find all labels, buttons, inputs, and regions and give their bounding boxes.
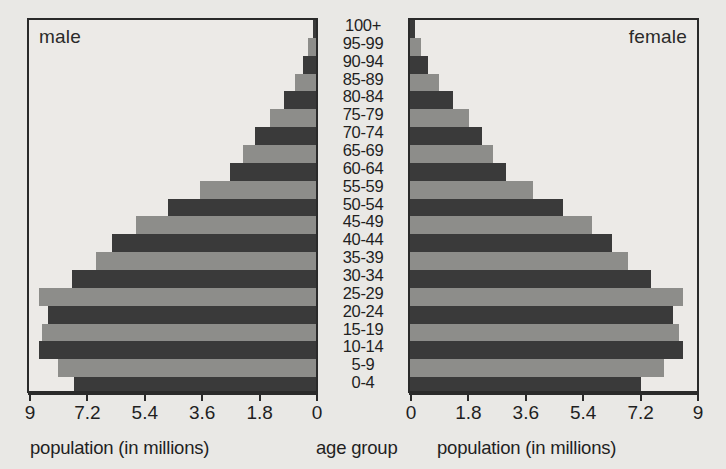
age-group-label-15-19: 15-19 xyxy=(318,321,408,339)
female-bars-group xyxy=(410,20,697,391)
bar-male-35-39 xyxy=(96,252,316,270)
bar-row xyxy=(410,91,697,109)
male-axis-caption: population (in millions) xyxy=(30,437,209,459)
axis-tick xyxy=(640,393,642,401)
bar-row xyxy=(29,20,316,38)
bar-male-50-54 xyxy=(168,199,316,217)
bar-male-15-19 xyxy=(42,324,316,342)
bar-male-65-69 xyxy=(243,145,316,163)
age-group-label-85-89: 85-89 xyxy=(318,71,408,89)
male-axis-line xyxy=(28,393,317,395)
bar-male-85-89 xyxy=(295,74,316,92)
axis-tick-label-0: 0 xyxy=(406,402,417,424)
bar-female-10-14 xyxy=(410,341,683,359)
axis-tick-label-9: 9 xyxy=(25,402,36,424)
age-group-label-70-74: 70-74 xyxy=(318,124,408,142)
bar-row xyxy=(410,216,697,234)
bar-row xyxy=(410,324,697,342)
bar-female-5-9 xyxy=(410,359,664,377)
male-x-axis: 97.25.43.61.80 xyxy=(27,393,318,403)
bar-row xyxy=(410,56,697,74)
female-panel: female xyxy=(408,18,699,393)
bar-row xyxy=(410,109,697,127)
age-group-label-80-84: 80-84 xyxy=(318,88,408,106)
bar-male-25-29 xyxy=(39,288,316,306)
bar-male-100+ xyxy=(313,20,316,38)
bar-row xyxy=(410,234,697,252)
bar-row xyxy=(410,163,697,181)
bar-male-30-34 xyxy=(72,270,316,288)
bar-male-75-79 xyxy=(270,109,316,127)
male-panel: male xyxy=(27,18,318,393)
bar-row xyxy=(410,199,697,217)
bar-row xyxy=(410,181,697,199)
bar-female-70-74 xyxy=(410,127,482,145)
bar-male-5-9 xyxy=(58,359,316,377)
age-group-label-60-64: 60-64 xyxy=(318,160,408,178)
bar-row xyxy=(29,109,316,127)
bar-female-65-69 xyxy=(410,145,493,163)
age-group-label-50-54: 50-54 xyxy=(318,196,408,214)
bar-female-100+ xyxy=(410,20,415,38)
bar-male-90-94 xyxy=(303,56,316,74)
bar-row xyxy=(410,127,697,145)
bar-row xyxy=(29,91,316,109)
bar-row xyxy=(410,145,697,163)
bar-female-50-54 xyxy=(410,199,563,217)
bar-female-60-64 xyxy=(410,163,506,181)
bar-female-30-34 xyxy=(410,270,651,288)
bar-row xyxy=(410,270,697,288)
bar-male-70-74 xyxy=(255,127,316,145)
age-group-label-5-9: 5-9 xyxy=(318,356,408,374)
age-group-label-100+: 100+ xyxy=(318,17,408,35)
bar-row xyxy=(29,288,316,306)
bar-male-45-49 xyxy=(136,216,316,234)
age-group-axis-caption: age group xyxy=(316,437,398,459)
bar-female-90-94 xyxy=(410,56,428,74)
bar-row xyxy=(29,359,316,377)
axis-tick xyxy=(259,393,261,401)
male-bars-group xyxy=(29,20,316,391)
age-group-label-55-59: 55-59 xyxy=(318,178,408,196)
population-pyramid-chart: male 100+95-9990-9485-8980-8475-7970-746… xyxy=(0,0,726,469)
age-group-label-40-44: 40-44 xyxy=(318,231,408,249)
age-group-label-45-49: 45-49 xyxy=(318,213,408,231)
bar-row xyxy=(29,74,316,92)
bar-row xyxy=(410,20,697,38)
axis-tick xyxy=(201,393,203,401)
bar-female-80-84 xyxy=(410,91,453,109)
bar-row xyxy=(410,252,697,270)
bar-female-25-29 xyxy=(410,288,683,306)
bar-row xyxy=(29,216,316,234)
bar-row xyxy=(410,377,697,393)
bar-male-95-99 xyxy=(308,38,316,56)
bar-row xyxy=(29,56,316,74)
bar-male-60-64 xyxy=(230,163,316,181)
age-group-label-90-94: 90-94 xyxy=(318,53,408,71)
bar-male-40-44 xyxy=(112,234,316,252)
female-x-axis: 01.83.65.47.29 xyxy=(408,393,699,403)
bar-row xyxy=(29,163,316,181)
bar-row xyxy=(29,270,316,288)
bar-row xyxy=(29,234,316,252)
bar-row xyxy=(29,181,316,199)
axis-tick xyxy=(316,393,318,401)
bar-row xyxy=(29,145,316,163)
axis-tick xyxy=(582,393,584,401)
bar-female-40-44 xyxy=(410,234,612,252)
bar-female-95-99 xyxy=(410,38,421,56)
axis-tick-label-1.8: 1.8 xyxy=(455,402,481,424)
age-group-label-10-14: 10-14 xyxy=(318,338,408,356)
axis-tick-label-3.6: 3.6 xyxy=(513,402,539,424)
bar-row xyxy=(410,306,697,324)
axis-tick xyxy=(29,393,31,401)
bar-row xyxy=(29,252,316,270)
axis-tick-label-9: 9 xyxy=(693,402,704,424)
bar-row xyxy=(29,377,316,393)
bar-row xyxy=(29,127,316,145)
axis-tick xyxy=(525,393,527,401)
bar-male-55-59 xyxy=(200,181,316,199)
age-group-label-75-79: 75-79 xyxy=(318,106,408,124)
age-group-label-25-29: 25-29 xyxy=(318,285,408,303)
bar-row xyxy=(29,38,316,56)
